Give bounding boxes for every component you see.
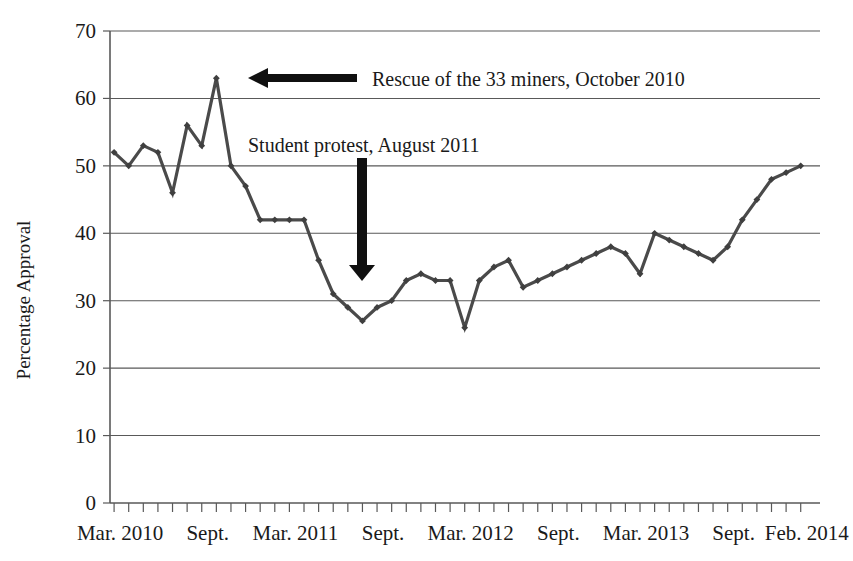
y-tick-label-20: 20 — [75, 356, 96, 380]
approval-series-line — [114, 78, 801, 327]
rescue-annotation-arrow — [248, 68, 357, 88]
data-point-marker — [286, 216, 293, 223]
x-tick-label-3: Sept. — [362, 521, 405, 545]
x-tick-label-2: Mar. 2011 — [253, 521, 339, 545]
y-tick-label-30: 30 — [75, 289, 96, 313]
x-tick-label-4: Mar. 2012 — [428, 521, 514, 545]
y-tick-label-70: 70 — [75, 19, 96, 43]
student-protest-annotation-label: Student protest, August 2011 — [248, 134, 479, 157]
data-point-marker — [213, 75, 220, 82]
x-tick-label-7: Sept. — [712, 521, 755, 545]
y-tick-label-50: 50 — [75, 154, 96, 178]
y-tick-label-10: 10 — [75, 424, 96, 448]
y-axis-title: Percentage Approval — [13, 221, 34, 380]
tick-marks-group — [114, 503, 801, 512]
rescue-annotation-label: Rescue of the 33 miners, October 2010 — [372, 68, 685, 90]
y-tick-label-60: 60 — [75, 86, 96, 110]
chart-canvas: 010203040506070 Mar. 2010Sept.Mar. 2011S… — [0, 0, 853, 561]
y-axis-tick-labels: 010203040506070 — [75, 19, 110, 515]
x-axis-tick-labels: Mar. 2010Sept.Mar. 2011Sept.Mar. 2012Sep… — [77, 521, 849, 545]
y-tick-label-0: 0 — [86, 491, 97, 515]
approval-series-markers — [111, 75, 804, 331]
data-point-marker — [271, 216, 278, 223]
x-tick-label-8: Feb. 2014 — [765, 521, 850, 545]
x-tick-label-5: Sept. — [537, 521, 580, 545]
x-tick-label-1: Sept. — [186, 521, 229, 545]
approval-rating-line-chart: 010203040506070 Mar. 2010Sept.Mar. 2011S… — [0, 0, 853, 561]
gridlines-group — [110, 31, 820, 436]
x-tick-label-6: Mar. 2013 — [603, 521, 689, 545]
y-tick-label-40: 40 — [75, 221, 96, 245]
x-tick-label-0: Mar. 2010 — [77, 521, 163, 545]
student-protest-annotation-arrow — [349, 158, 375, 281]
chart-page: 010203040506070 Mar. 2010Sept.Mar. 2011S… — [0, 0, 853, 561]
